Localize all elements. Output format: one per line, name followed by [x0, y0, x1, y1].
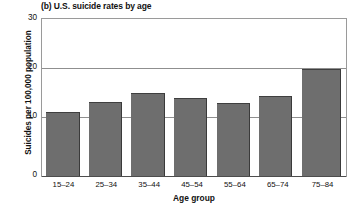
- y-tick-label-20: 20: [14, 63, 37, 71]
- y-tick-label-10: 10: [14, 112, 37, 120]
- bar-slot-45-54: [174, 19, 207, 176]
- bar-75-84: [302, 69, 341, 176]
- x-tick-label-25-34: 25–34: [85, 180, 128, 189]
- bar-15-24: [46, 112, 79, 176]
- x-tick-label-15-24: 15–24: [42, 180, 85, 189]
- y-tick-label-30: 30: [14, 14, 37, 22]
- bar-slot-35-44: [131, 19, 164, 176]
- x-axis-title: Age group: [41, 193, 347, 203]
- bar-slot-65-74: [259, 19, 292, 176]
- bar-25-34: [89, 102, 122, 176]
- bar-series: [43, 19, 345, 176]
- plot-area: [41, 18, 347, 177]
- bar-slot-25-34: [89, 19, 122, 176]
- bar-slot-15-24: [46, 19, 79, 176]
- bar-45-54: [174, 98, 207, 177]
- bar-slot-75-84: [302, 19, 341, 176]
- x-tick-label-45-54: 45–54: [171, 180, 214, 189]
- x-tick-label-65-74: 65–74: [256, 180, 299, 189]
- bar-65-74: [259, 96, 292, 176]
- x-tick-label-75-84: 75–84: [299, 180, 346, 189]
- x-axis-tick-labels: 15–24 25–34 35–44 45–54 55–64 65–74 75–8…: [42, 180, 346, 192]
- bar-35-44: [131, 93, 164, 176]
- x-tick-label-35-44: 35–44: [128, 180, 171, 189]
- bar-slot-55-64: [217, 19, 250, 176]
- axis-baseline: [42, 176, 346, 177]
- chart-figure: (b) U.S. suicide rates by age Suicides p…: [0, 0, 349, 206]
- y-tick-label-0: 0: [14, 171, 37, 179]
- x-tick-label-55-64: 55–64: [213, 180, 256, 189]
- bar-55-64: [217, 103, 250, 176]
